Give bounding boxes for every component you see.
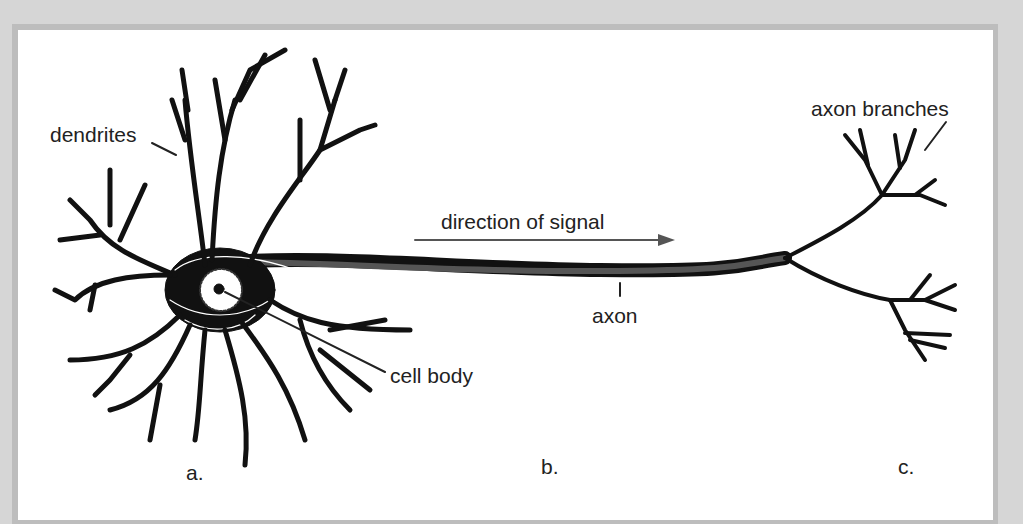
axon-branches-shape — [785, 130, 955, 360]
direction-arrow — [415, 234, 675, 246]
axon-branches-label: axon branches — [811, 98, 949, 119]
cell-body-label: cell body — [390, 365, 473, 386]
dendrites-label: dendrites — [50, 124, 136, 145]
leader-lines — [152, 122, 946, 372]
panel-label-b: b. — [541, 456, 559, 477]
axon-shape — [230, 258, 785, 271]
panel-label-a: a. — [186, 462, 204, 483]
panel-label-c: c. — [898, 456, 914, 477]
axon-label: axon — [592, 305, 638, 326]
direction-of-signal-label: direction of signal — [441, 211, 604, 232]
